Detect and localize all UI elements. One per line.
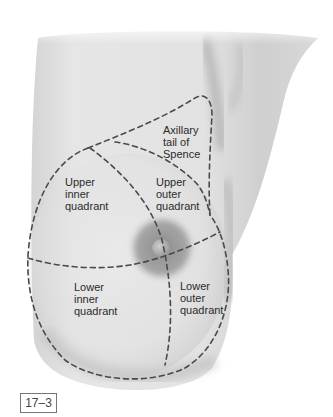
figure-number-badge: 17–3 bbox=[20, 393, 57, 413]
label-upper-inner-quadrant: Upper inner quadrant bbox=[65, 176, 108, 212]
top-fade bbox=[30, 22, 330, 44]
label-lower-outer-quadrant: Lower outer quadrant bbox=[180, 280, 223, 316]
label-lower-inner-quadrant: Lower inner quadrant bbox=[74, 281, 117, 317]
nipple bbox=[152, 239, 170, 257]
label-upper-outer-quadrant: Upper outer quadrant bbox=[156, 176, 199, 212]
label-axillary-tail: Axillary tail of Spence bbox=[163, 124, 200, 160]
